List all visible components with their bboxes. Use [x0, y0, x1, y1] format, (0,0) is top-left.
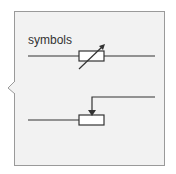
circuit-symbols-diagram — [0, 0, 176, 174]
callout-pointer — [8, 81, 15, 94]
symbols-label: symbols — [28, 33, 72, 47]
potentiometer-icon — [28, 97, 155, 125]
variable-resistor-icon — [28, 44, 155, 69]
